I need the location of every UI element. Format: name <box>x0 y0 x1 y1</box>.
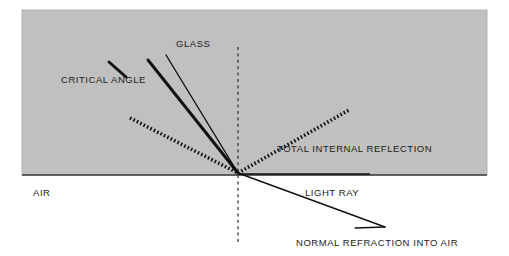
normal-refraction-leader-line <box>355 227 385 228</box>
label-glass: GLASS <box>176 38 210 49</box>
label-air: AIR <box>33 187 51 198</box>
label-total-internal-reflection: TOTAL INTERNAL REFLECTION <box>277 143 432 154</box>
diagram-canvas: GLASS CRITICAL ANGLE TOTAL INTERNAL REFL… <box>0 0 509 256</box>
total-internal-reflection-diagram: GLASS CRITICAL ANGLE TOTAL INTERNAL REFL… <box>0 0 509 256</box>
normal-refracted-ray <box>238 173 385 227</box>
label-normal-refraction-into-air: NORMAL REFRACTION INTO AIR <box>296 237 458 248</box>
label-light-ray: LIGHT RAY <box>305 187 359 198</box>
label-critical-angle: CRITICAL ANGLE <box>61 74 146 85</box>
